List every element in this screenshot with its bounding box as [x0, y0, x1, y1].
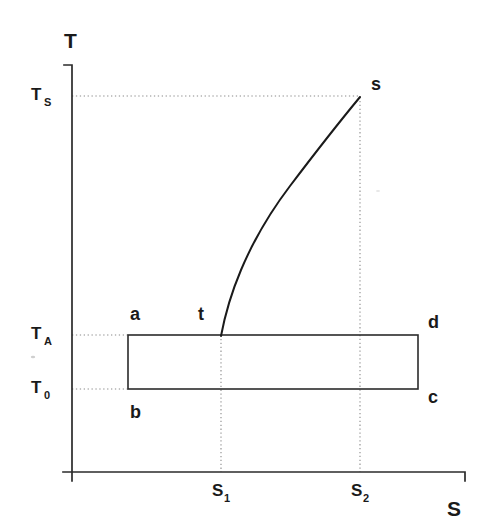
x-tick-s1-base: S: [212, 481, 223, 500]
rectangle-abcd: [128, 335, 418, 389]
y-tick-ts: T S: [31, 85, 51, 108]
y-tick-t0-subscript: 0: [44, 389, 50, 401]
x-tick-s2-base: S: [351, 481, 362, 500]
x-tick-s1: S 1: [212, 481, 230, 504]
ts-diagram: T S T S T A T 0 S 1 S 2 a b c d t s: [0, 0, 491, 532]
y-tick-ts-subscript: S: [44, 96, 51, 108]
y-tick-ts-base: T: [31, 85, 42, 104]
y-tick-t0: T 0: [31, 378, 50, 401]
x-axis-label: S: [447, 497, 461, 520]
point-label-d: d: [428, 312, 439, 332]
point-label-t: t: [198, 304, 204, 324]
y-tick-ta-subscript: A: [44, 335, 52, 347]
y-tick-t0-base: T: [31, 378, 42, 397]
y-tick-ta: T A: [31, 324, 52, 347]
point-label-a: a: [130, 304, 141, 324]
y-axis-label: T: [64, 29, 77, 52]
point-label-c: c: [428, 387, 438, 407]
process-curve: [221, 97, 360, 336]
x-tick-s1-subscript: 1: [224, 492, 230, 504]
y-tick-ta-base: T: [31, 324, 42, 343]
scan-artifact: [31, 356, 35, 358]
x-tick-s2: S 2: [351, 481, 369, 504]
x-axis: [63, 472, 465, 481]
x-tick-s2-subscript: 2: [363, 492, 369, 504]
y-axis: [64, 65, 72, 481]
point-label-s: s: [371, 74, 381, 94]
scan-artifact-2: [376, 190, 380, 192]
point-label-b: b: [130, 402, 141, 422]
